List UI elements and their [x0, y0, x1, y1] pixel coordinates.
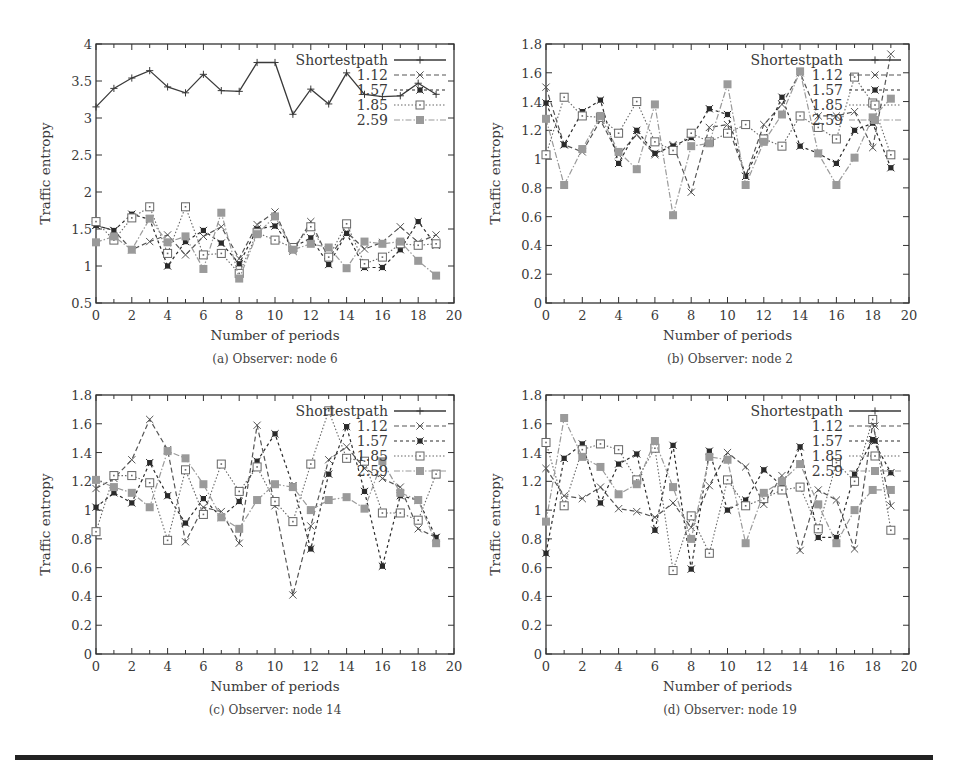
y-tick-label: 0.6: [521, 561, 542, 576]
x-axis-label: Number of periods: [663, 678, 792, 694]
y-tick-label: 1.2: [521, 474, 542, 489]
y-tick-label: 0.4: [521, 589, 542, 604]
x-tick-label: 16: [828, 659, 845, 674]
x-tick-label: 0: [542, 308, 550, 323]
x-tick-label: 16: [828, 308, 845, 323]
x-tick-label: 20: [901, 659, 918, 674]
chart-panel-c: 00.20.40.60.811.21.41.61.802468101214161…: [0, 350, 480, 730]
y-tick-label: 0: [534, 296, 542, 311]
y-tick-label: 0.4: [71, 589, 92, 604]
x-tick-label: 10: [267, 659, 284, 674]
legend-label: Shortestpath: [751, 52, 843, 68]
y-tick-label: 1.4: [521, 95, 542, 110]
x-tick-label: 10: [719, 308, 736, 323]
legend-label: Shortestpath: [296, 52, 388, 68]
y-tick-label: 0.8: [71, 532, 92, 547]
plot-frame: [546, 395, 909, 654]
x-tick-label: 20: [901, 308, 918, 323]
y-axis-label: Traffic entropy: [37, 473, 53, 576]
y-tick-label: 1.6: [521, 417, 542, 432]
x-tick-label: 8: [687, 308, 695, 323]
y-tick-label: 0.4: [521, 238, 542, 253]
legend-label: 1.85: [357, 97, 388, 113]
x-tick-label: 10: [719, 659, 736, 674]
series-1-57: [92, 211, 439, 271]
y-tick-label: 0: [84, 647, 92, 662]
x-tick-label: 20: [446, 308, 463, 323]
plot-frame: [96, 44, 454, 303]
y-tick-label: 3: [84, 111, 92, 126]
legend-label: 1.85: [812, 448, 843, 464]
y-tick-label: 0.2: [521, 267, 542, 282]
x-tick-label: 2: [128, 659, 136, 674]
x-tick-label: 14: [792, 659, 809, 674]
line-chart-c: 00.20.40.60.811.21.41.61.802468101214161…: [0, 350, 480, 710]
legend-label: 1.57: [812, 82, 843, 98]
legend-label: 2.59: [357, 463, 388, 479]
x-tick-label: 8: [235, 659, 243, 674]
x-tick-label: 20: [446, 659, 463, 674]
line-chart-a: 0.511.522.533.5402468101214161820Number …: [0, 0, 480, 360]
caption-d: (d) Observer: node 19: [580, 703, 880, 717]
y-tick-label: 4: [84, 37, 92, 52]
y-tick-label: 1: [534, 503, 542, 518]
legend-label: 2.59: [812, 463, 843, 479]
y-tick-label: 1.8: [71, 388, 92, 403]
y-tick-label: 1.2: [71, 474, 92, 489]
x-tick-label: 12: [756, 308, 773, 323]
x-tick-label: 0: [92, 659, 100, 674]
y-tick-label: 0.8: [521, 181, 542, 196]
y-tick-label: 1.8: [521, 37, 542, 52]
x-axis-label: Number of periods: [210, 678, 339, 694]
legend-label: 1.57: [357, 433, 388, 449]
y-tick-label: 2: [84, 185, 92, 200]
y-tick-label: 1.6: [521, 66, 542, 81]
x-tick-label: 8: [235, 308, 243, 323]
y-tick-label: 0.8: [521, 532, 542, 547]
x-tick-label: 6: [199, 308, 207, 323]
x-tick-label: 18: [864, 308, 881, 323]
line-chart-b: 00.20.40.60.811.21.41.61.802468101214161…: [473, 0, 953, 360]
y-axis-label: Traffic entropy: [37, 122, 53, 225]
x-tick-label: 2: [128, 308, 136, 323]
legend-label: 1.12: [812, 418, 843, 434]
x-tick-label: 0: [542, 659, 550, 674]
y-tick-label: 0.2: [521, 618, 542, 633]
y-tick-label: 1.6: [71, 417, 92, 432]
legend-label: Shortestpath: [296, 403, 388, 419]
chart-panel-a: 0.511.522.533.5402468101214161820Number …: [0, 0, 480, 380]
y-tick-label: 0.2: [71, 618, 92, 633]
x-tick-label: 6: [651, 659, 659, 674]
x-tick-label: 14: [792, 308, 809, 323]
y-axis-label: Traffic entropy: [487, 473, 503, 576]
legend-label: 2.59: [357, 112, 388, 128]
x-tick-label: 12: [303, 659, 320, 674]
legend-label: Shortestpath: [751, 403, 843, 419]
x-tick-label: 4: [614, 659, 622, 674]
y-tick-label: 1.5: [71, 222, 92, 237]
x-tick-label: 12: [303, 308, 320, 323]
series-1-12: [92, 208, 439, 262]
x-tick-label: 8: [687, 659, 695, 674]
x-tick-label: 4: [163, 308, 171, 323]
y-tick-label: 1: [534, 152, 542, 167]
x-tick-label: 2: [578, 308, 586, 323]
x-tick-label: 12: [756, 659, 773, 674]
y-tick-label: 1.4: [521, 446, 542, 461]
y-tick-label: 0.6: [521, 210, 542, 225]
legend-label: 1.85: [357, 448, 388, 464]
x-tick-label: 16: [374, 659, 391, 674]
x-tick-label: 14: [338, 308, 355, 323]
legend-label: 1.57: [357, 82, 388, 98]
x-tick-label: 14: [338, 659, 355, 674]
legend: Shortestpath1.121.571.852.59: [751, 52, 901, 128]
x-tick-label: 4: [163, 659, 171, 674]
legend-label: 1.12: [812, 67, 843, 83]
x-axis-label: Number of periods: [663, 327, 792, 343]
line-chart-d: 00.20.40.60.811.21.41.61.802468101214161…: [473, 350, 953, 710]
legend: Shortestpath1.121.571.852.59: [751, 403, 901, 479]
x-axis-label: Number of periods: [210, 327, 339, 343]
y-tick-label: 0: [534, 647, 542, 662]
y-tick-label: 1.2: [521, 123, 542, 138]
y-tick-label: 3.5: [71, 74, 92, 89]
